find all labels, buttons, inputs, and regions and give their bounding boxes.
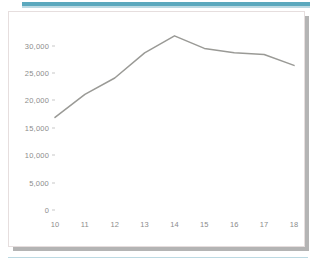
line-series-layer [9,12,306,248]
chart-card: 05,00010,00015,00020,00025,00030,000 101… [8,11,305,247]
chart-screenshot: 05,00010,00015,00020,00025,00030,000 101… [0,0,316,261]
bottom-accent-rule [8,257,308,258]
plot-area: 05,00010,00015,00020,00025,00030,000 101… [9,12,306,248]
line-series-path [55,36,294,118]
top-accent-rule-soft [22,6,310,8]
